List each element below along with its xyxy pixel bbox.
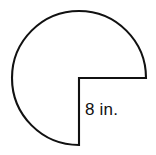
geometry-figure-canvas: 8 in. xyxy=(0,0,156,155)
radius-dimension-label: 8 in. xyxy=(85,100,118,120)
three-quarter-circle-outline xyxy=(12,11,146,145)
shape-diagram xyxy=(0,0,156,155)
